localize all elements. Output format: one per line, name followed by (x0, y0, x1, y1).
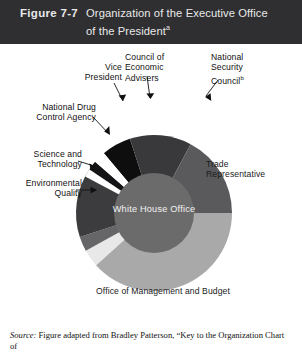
callout-national-security-council-line1: National (211, 52, 243, 62)
callout-vice-president: Vice President (76, 62, 122, 83)
callout-science-and-technology-line2: Technology (38, 159, 82, 169)
source-text: Figure adapted from Bradley Patterson, “… (10, 330, 284, 351)
callout-national-drug-control-agency-line1: National Drug (42, 102, 96, 112)
callout-environmental-quality-line2: Quality (55, 188, 82, 198)
callout-environmental-quality-line1: Environmental (26, 178, 82, 188)
source-note: Source: Figure adapted from Bradley Patt… (0, 330, 302, 352)
callout-science-and-technology-line1: Science and (34, 149, 82, 159)
callout-vice-president-line1: Vice (105, 62, 122, 72)
council-economic-advisers-arrowhead (146, 93, 154, 99)
national-security-council-footnote-marker: b (240, 75, 243, 81)
figure-title-footnote-marker: a (166, 24, 170, 31)
callout-vice-president-line2: President (85, 72, 122, 82)
white-house-office-hub[interactable] (114, 173, 194, 253)
figure-title-line2: of the President (86, 24, 166, 36)
callout-national-drug-control-agency-line2: Control Agency (36, 112, 96, 122)
figure-title-line1: Organization of the Executive Office (86, 7, 268, 19)
source-label: Source: (10, 330, 36, 340)
figure-header: Figure 7-7 Organization of the Executive… (0, 0, 302, 44)
callout-science-and-technology: Science and Technology (4, 149, 82, 170)
figure-title: Organization of the Executive Office of … (86, 7, 291, 38)
callout-national-drug-control-agency: National Drug Control Agency (8, 102, 96, 123)
chart-area: White House Office Trade Representative … (0, 44, 302, 316)
callout-council-economic-advisers-line2: Advisers (125, 73, 159, 83)
callout-council-economic-advisers-line1: Council of Economic (125, 52, 164, 72)
callout-national-security-council-line2: Security (211, 62, 243, 72)
callout-council-economic-advisers: Council of Economic Advisers (125, 52, 197, 83)
callout-national-security-council: National Security Councilb (211, 52, 271, 86)
callout-national-security-council-line3: Council (211, 76, 240, 86)
national-security-council-arrowhead (205, 93, 211, 101)
callout-environmental-quality: Environmental Quality (4, 178, 82, 199)
figure-number: Figure 7-7 (20, 7, 78, 19)
national-drug-control-arrowhead (104, 126, 110, 135)
